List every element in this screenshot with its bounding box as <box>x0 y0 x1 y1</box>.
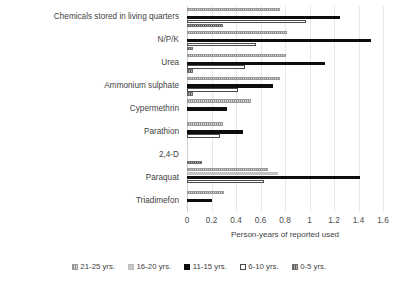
bar <box>187 31 287 34</box>
bar <box>187 43 256 46</box>
bar <box>187 130 243 133</box>
legend-label: 11-15 yrs. <box>193 262 227 271</box>
category-label: Ammonium sulphate <box>104 81 179 90</box>
bar <box>187 88 238 91</box>
legend-swatch-icon <box>184 264 190 270</box>
bar-chart: Chemicals stored in living quartersN/P/K… <box>0 0 398 286</box>
x-tick-label: 0.6 <box>255 216 266 225</box>
x-tick-label: 0.4 <box>230 216 241 225</box>
bar-group <box>187 52 383 75</box>
bar <box>187 54 286 57</box>
bar <box>187 172 278 175</box>
category-label: Urea <box>161 58 179 67</box>
legend-swatch-icon <box>72 264 78 270</box>
category-label: N/P/K <box>158 35 179 44</box>
category-label: Cypermethrin <box>130 104 179 113</box>
bar <box>187 134 220 137</box>
plot-area <box>187 6 383 212</box>
bar <box>187 84 273 87</box>
bar <box>187 92 193 95</box>
category-axis: Chemicals stored in living quartersN/P/K… <box>0 6 183 212</box>
bar <box>187 161 202 164</box>
x-axis-ticks: 00.20.40.60.811.21.41.6 <box>187 216 383 228</box>
bar-group <box>187 6 383 29</box>
legend-label: 21-25 yrs. <box>80 262 115 271</box>
legend-item[interactable]: 16-20 yrs. <box>128 262 171 271</box>
bar-group <box>187 166 383 189</box>
bar <box>187 180 264 183</box>
bar-group <box>187 98 383 121</box>
bar <box>187 65 245 68</box>
legend-item[interactable]: 11-15 yrs. <box>184 262 227 271</box>
bar <box>187 8 280 11</box>
bar <box>187 24 223 27</box>
x-tick-label: 1 <box>307 216 312 225</box>
bar-group <box>187 75 383 98</box>
legend-item[interactable]: 6-10 yrs. <box>240 262 279 271</box>
x-tick-label: 0.8 <box>279 216 290 225</box>
legend-item[interactable]: 0-5 yrs. <box>292 262 327 271</box>
bar <box>187 99 251 102</box>
legend-swatch-icon <box>240 264 246 270</box>
bar-group <box>187 29 383 52</box>
x-tick-label: 1.6 <box>377 216 388 225</box>
legend-swatch-icon <box>292 264 298 270</box>
category-label: Parathion <box>144 127 179 136</box>
bar <box>187 16 340 19</box>
bar <box>187 77 280 80</box>
bar <box>187 62 325 65</box>
bar <box>187 47 193 50</box>
legend-label: 6-10 yrs. <box>248 262 278 271</box>
x-tick-label: 1.4 <box>353 216 364 225</box>
category-label: Chemicals stored in living quarters <box>54 12 179 21</box>
category-label: Triadimefon <box>136 196 179 205</box>
bar-group <box>187 120 383 143</box>
legend-label: 0-5 yrs. <box>300 262 326 271</box>
bar <box>187 39 371 42</box>
gridline <box>383 6 384 212</box>
bar <box>187 176 360 179</box>
legend-item[interactable]: 21-25 yrs. <box>72 262 115 271</box>
bar <box>187 191 224 194</box>
bar <box>187 20 306 23</box>
bar <box>187 168 268 171</box>
x-tick-label: 0.2 <box>206 216 217 225</box>
bar <box>187 107 227 110</box>
x-axis-title: Person-years of reported used <box>187 230 383 239</box>
bar-group <box>187 189 383 212</box>
category-label: Paraquat <box>146 173 179 182</box>
x-tick-label: 1.2 <box>328 216 339 225</box>
bar <box>187 69 193 72</box>
bar <box>187 199 212 202</box>
legend-swatch-icon <box>128 264 134 270</box>
chart-legend: 21-25 yrs.16-20 yrs.11-15 yrs.6-10 yrs.0… <box>0 262 398 271</box>
x-tick-label: 0 <box>185 216 190 225</box>
bar <box>187 122 223 125</box>
category-label: 2,4-D <box>159 150 179 159</box>
bar-group <box>187 143 383 166</box>
legend-label: 16-20 yrs. <box>137 262 172 271</box>
